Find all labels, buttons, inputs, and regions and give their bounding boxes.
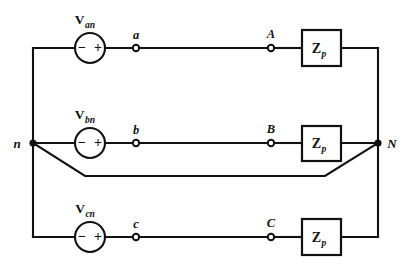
phase-c-source-label: Vcn [75, 201, 95, 219]
phase-a-plus-sign: + [94, 40, 102, 55]
phase-b-source-label-sub: bn [85, 115, 95, 125]
source-neutral-node-label: n [13, 136, 20, 151]
phase-a-source-label: Van [75, 12, 95, 30]
phase-b-minus-sign: − [78, 135, 86, 150]
phase-b-source-terminal-label: b [133, 123, 139, 137]
phase-b-load-terminal-label: B [266, 122, 275, 136]
phase-a-source-label-main: V [75, 12, 85, 27]
phase-c-minus-sign: − [78, 229, 86, 244]
phase-c-source-label-sub: cn [85, 209, 95, 219]
circuit-canvas: − + Van a A Zp − + Vbn b B Zp − + Vcn c … [0, 0, 412, 277]
phase-c-impedance-label-sub: p [321, 238, 327, 248]
phase-a-source-terminal-label: a [133, 28, 139, 42]
phase-c-source-label-main: V [75, 201, 85, 216]
circuit-diagram: − + Van a A Zp − + Vbn b B Zp − + Vcn c … [0, 0, 412, 277]
phase-c-impedance-label-main: Z [312, 230, 321, 245]
phase-b-plus-sign: + [94, 135, 102, 150]
phase-a-minus-sign: − [78, 40, 86, 55]
phase-a-source-label-sub: an [85, 20, 95, 30]
phase-b-impedance-label-sub: p [321, 144, 327, 154]
phase-c-plus-sign: + [94, 229, 102, 244]
phase-b-source-label-main: V [75, 107, 85, 122]
phase-b-source-label: Vbn [75, 107, 95, 125]
phase-a-load-terminal-label: A [266, 27, 275, 41]
phase-a-impedance-label-sub: p [321, 49, 327, 59]
phase-b-impedance-label-main: Z [312, 136, 321, 151]
phase-a-impedance-label-main: Z [312, 41, 321, 56]
load-neutral-node-label: N [386, 136, 397, 151]
phase-c-source-terminal-label: c [133, 217, 139, 231]
phase-c-load-terminal-label: C [267, 216, 276, 230]
